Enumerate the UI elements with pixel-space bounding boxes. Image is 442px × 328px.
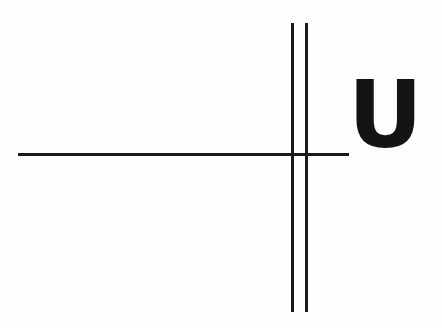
letter-u-glyph: U: [348, 68, 410, 164]
figure-canvas: U: [0, 0, 442, 328]
